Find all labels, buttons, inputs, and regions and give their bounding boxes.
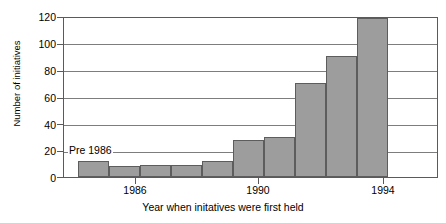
bar-1991	[264, 137, 295, 177]
annotation-pre-1986: Pre 1986	[68, 145, 113, 156]
bar-pre-1986	[78, 161, 109, 177]
y-tick-label-120: 120	[22, 12, 56, 22]
bar-1992	[295, 83, 326, 177]
y-tick-label-60: 60	[22, 93, 56, 103]
bar-1988	[171, 165, 202, 177]
bar-1989	[202, 161, 233, 177]
bar-1993	[326, 56, 357, 177]
y-tick-label-20: 20	[22, 146, 56, 156]
y-tick-label-40: 40	[22, 120, 56, 130]
bar-1994	[357, 18, 388, 177]
x-tick-label-1990: 1990	[228, 184, 288, 196]
x-axis-label: Year when initatives were first held	[0, 201, 446, 213]
y-tick-label-100: 100	[22, 39, 56, 49]
x-tick-label-1986: 1986	[105, 184, 165, 196]
plot-area	[63, 17, 438, 178]
y-axis-label: Number of initiatives	[11, 4, 22, 164]
plot-inner	[64, 18, 437, 177]
y-tick-label-0: 0	[22, 173, 56, 183]
bar-1990	[233, 140, 264, 177]
bar-chart: Number of initiatives 120 100 80 60 40 2…	[0, 0, 446, 223]
x-tick-label-1994: 1994	[353, 184, 413, 196]
y-tick-label-80: 80	[22, 66, 56, 76]
bar-1986	[109, 166, 140, 177]
bar-1987	[140, 165, 171, 177]
